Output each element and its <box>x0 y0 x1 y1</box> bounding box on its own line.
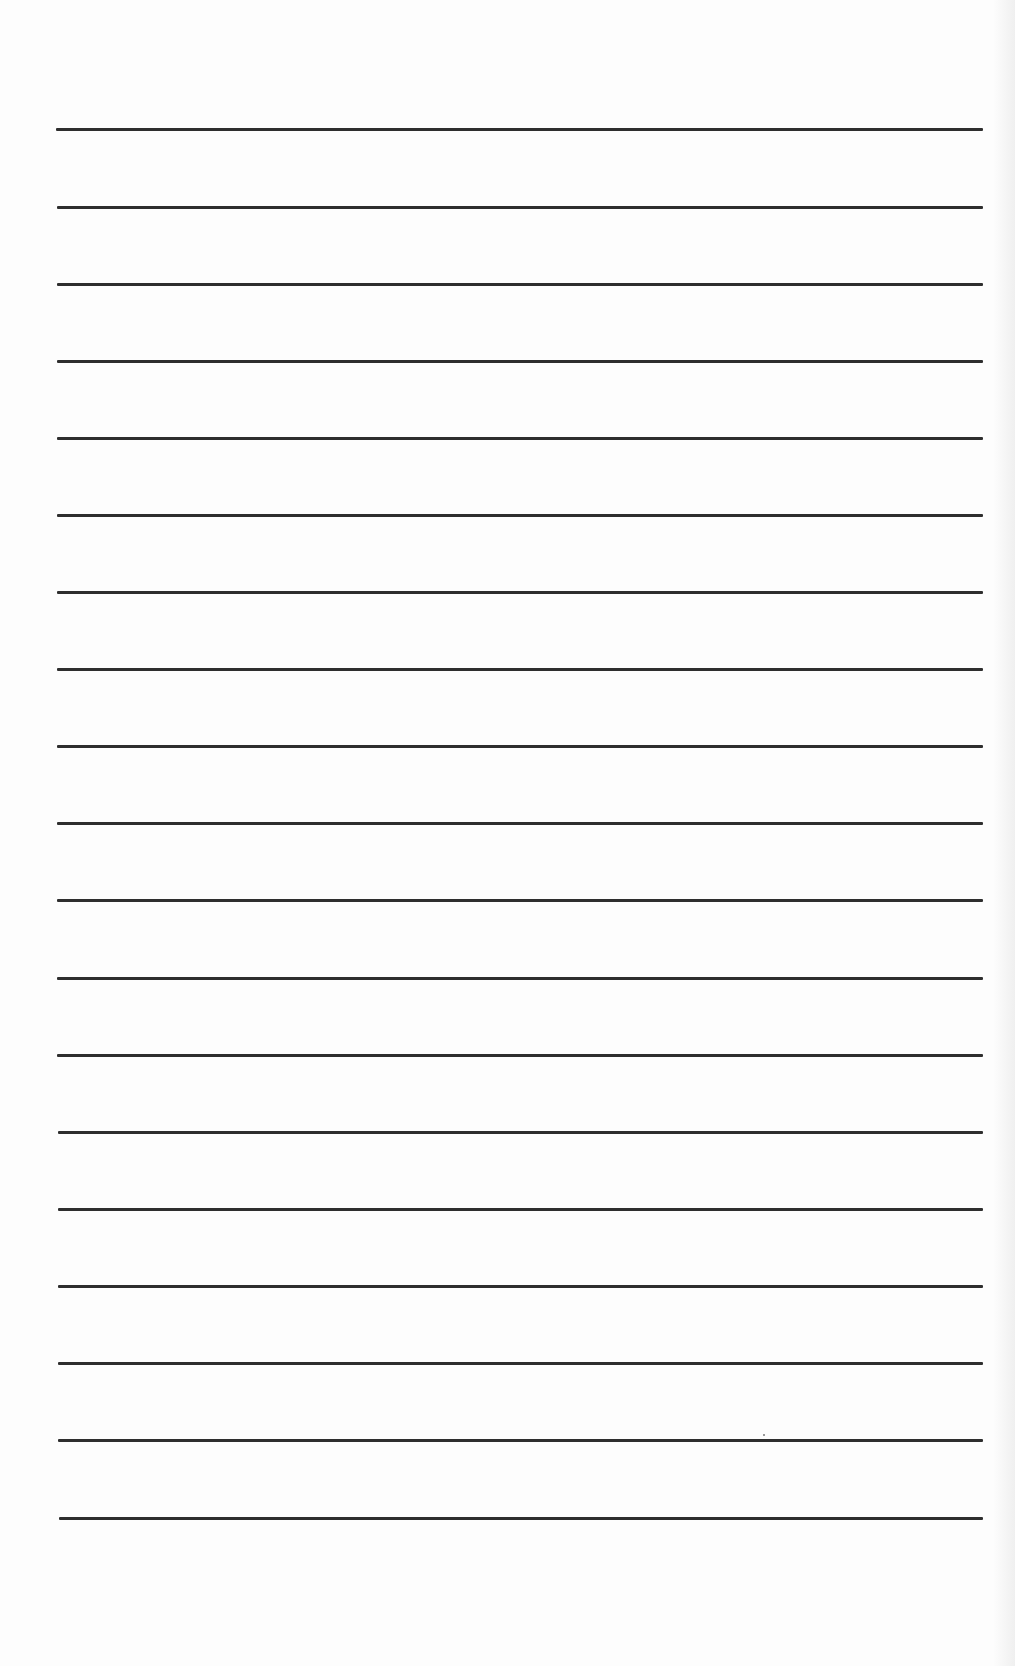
ruled-line <box>57 899 983 902</box>
scan-speck <box>763 1434 765 1436</box>
ruled-line <box>57 283 983 286</box>
ruled-line <box>56 128 983 131</box>
page-edge-shadow <box>993 0 1015 1666</box>
ruled-line <box>58 1362 983 1365</box>
ruled-line <box>58 1439 983 1442</box>
ruled-line <box>57 977 983 980</box>
ruled-line <box>57 360 983 363</box>
ruled-line <box>58 1285 983 1288</box>
ruled-line <box>57 514 983 517</box>
ruled-line <box>57 1054 983 1057</box>
lined-paper-page <box>0 0 1015 1666</box>
ruled-line <box>57 822 983 825</box>
ruled-line <box>57 206 983 209</box>
ruled-line <box>57 437 983 440</box>
ruled-line <box>59 1517 983 1520</box>
ruled-line <box>58 1131 983 1134</box>
ruled-line <box>58 1208 983 1211</box>
ruled-line <box>57 745 983 748</box>
ruled-line <box>57 668 983 671</box>
ruled-line <box>57 591 983 594</box>
